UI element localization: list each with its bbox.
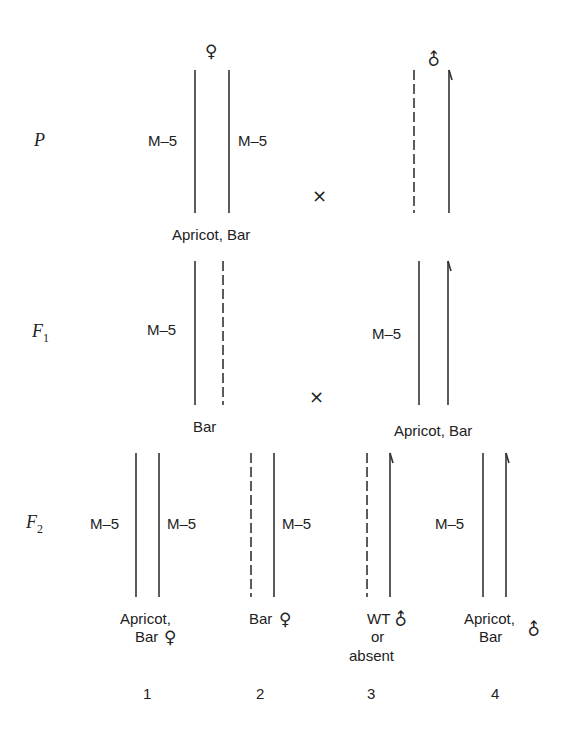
f2-1-phenotype-line1: Apricot, — [120, 610, 171, 628]
f2-3-phenotype-line3: absent — [349, 647, 394, 665]
f2-4-phenotype-line2: Bar — [479, 628, 502, 646]
f2-class-number-3: 3 — [367, 685, 375, 703]
generation-p-label: P — [34, 130, 45, 151]
f2-2-m5: M–5 — [282, 515, 311, 533]
f2-class-number-1: 1 — [143, 685, 151, 703]
f2-4-m5: M–5 — [435, 515, 464, 533]
f2-2-phenotype: Bar — [249, 610, 272, 628]
f2-1-phenotype-line2: Bar — [135, 628, 158, 646]
f1-male-m5: M–5 — [372, 325, 401, 343]
f1-male-phenotype: Apricot, Bar — [394, 422, 472, 440]
p-female-m5-left: M–5 — [148, 132, 177, 150]
cross-symbol-icon: × — [309, 386, 324, 407]
generation-f2-label: F2 — [26, 512, 43, 537]
f2-1-m5-right: M–5 — [167, 515, 196, 533]
f2-1-m5-left: M–5 — [90, 515, 119, 533]
female-symbol-icon: ♀ — [164, 628, 176, 646]
cross-symbol-icon: × — [312, 185, 327, 206]
p-female-m5-right: M–5 — [238, 132, 267, 150]
f1-female-phenotype: Bar — [193, 418, 216, 436]
f1-female-m5: M–5 — [147, 321, 176, 339]
female-symbol-icon: ♀ — [279, 610, 291, 628]
female-symbol-icon: ♀ — [205, 42, 217, 60]
generation-f1-label: F1 — [32, 321, 49, 346]
f2-3-phenotype-line1: WT — [367, 610, 390, 628]
f2-3-phenotype-line2: or — [371, 628, 384, 646]
p-female-phenotype: Apricot, Bar — [172, 226, 250, 244]
f2-4-phenotype-line1: Apricot, — [464, 610, 515, 628]
f2-class-number-4: 4 — [491, 685, 499, 703]
f2-class-number-2: 2 — [256, 685, 264, 703]
